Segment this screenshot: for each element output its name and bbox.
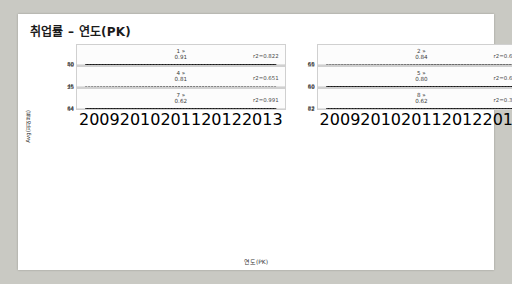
screenshot-root: 취업률 – 연도(PK) Avg(취업률) 연도(PK) 4050601 »0.… — [0, 0, 512, 284]
panel-value: 0.91 — [175, 55, 187, 61]
r2-label: r2=0.991 — [253, 97, 279, 103]
trellis-grid: 4050601 »0.91r2=0.8222535454 »0.81r2=0.6… — [54, 44, 484, 250]
x-axis: 20092010201120122013 — [54, 110, 286, 129]
y-tick-label: 64 — [67, 105, 74, 111]
panel-value: 0.81 — [175, 77, 187, 83]
panel-column-2: 5560652 »0.84r2=0.6994050605 »0.80r2=0.6… — [295, 44, 512, 129]
r2-label: r2=0.699 — [494, 53, 512, 59]
x-tick-label: 2010 — [120, 110, 161, 129]
panel-header: 5 »0.80 — [318, 67, 512, 87]
x-tick-labels: 20092010201120122013 — [317, 110, 512, 129]
plot-canvas — [77, 64, 285, 65]
plot-canvas — [318, 108, 512, 109]
plot-canvas — [318, 64, 512, 65]
x-tick-label: 2009 — [320, 110, 361, 129]
x-tick-label: 2011 — [401, 110, 442, 129]
chart-panel-8[interactable]: 6272828 »0.62r2=0.379 — [295, 88, 512, 110]
x-tick-label: 2013 — [482, 110, 512, 129]
plot-canvas — [77, 86, 285, 87]
chart-panel-1[interactable]: 4050601 »0.91r2=0.822 — [54, 44, 286, 66]
chart-panel-5[interactable]: 4050605 »0.80r2=0.640 — [295, 66, 512, 88]
x-tick-label: 2011 — [160, 110, 201, 129]
x-tick-labels: 20092010201120122013 — [76, 110, 286, 129]
plot-area[interactable]: 2 »0.84r2=0.699 — [317, 44, 512, 66]
plot-area[interactable]: 4 »0.81r2=0.651 — [76, 66, 286, 88]
page-title: 취업률 – 연도(PK) — [30, 22, 131, 39]
panel-header: 8 »0.62 — [318, 89, 512, 109]
x-axis-spacer — [54, 110, 76, 129]
chart-panel-4[interactable]: 2535454 »0.81r2=0.651 — [54, 66, 286, 88]
panel-value: 0.80 — [415, 77, 427, 83]
y-axis-ticks: 405060 — [54, 44, 76, 66]
x-tick-label: 2012 — [442, 110, 483, 129]
y-axis-title: Avg(취업률) — [24, 110, 36, 143]
r2-label: r2=0.379 — [494, 97, 512, 103]
y-axis-ticks: 253545 — [54, 66, 76, 88]
y-axis-ticks: 556065 — [295, 44, 317, 66]
x-axis-spacer — [295, 110, 317, 129]
r2-label: r2=0.651 — [253, 75, 279, 81]
x-tick-label: 2009 — [79, 110, 120, 129]
x-tick-label: 2013 — [242, 110, 283, 129]
panel-header: 2 »0.84 — [318, 45, 512, 65]
y-axis-ticks: 405060 — [295, 66, 317, 88]
chart-panel-7[interactable]: 4454647 »0.62r2=0.991 — [54, 88, 286, 110]
panel-column-1: 4050601 »0.91r2=0.8222535454 »0.81r2=0.6… — [54, 44, 286, 129]
chart-card: 취업률 – 연도(PK) Avg(취업률) 연도(PK) 4050601 »0.… — [18, 14, 494, 270]
plot-area[interactable]: 7 »0.62r2=0.991 — [76, 88, 286, 110]
y-axis-ticks: 627282 — [295, 88, 317, 110]
plot-area[interactable]: 1 »0.91r2=0.822 — [76, 44, 286, 66]
x-axis: 20092010201120122013 — [295, 110, 512, 129]
plot-area[interactable]: 5 »0.80r2=0.640 — [317, 66, 512, 88]
panel-value: 0.84 — [415, 55, 427, 61]
x-tick-label: 2010 — [360, 110, 401, 129]
r2-label: r2=0.640 — [494, 75, 512, 81]
y-axis-ticks: 445464 — [54, 88, 76, 110]
r2-label: r2=0.822 — [253, 53, 279, 59]
panel-value: 0.62 — [415, 99, 427, 105]
y-tick-label: 82 — [308, 105, 315, 111]
chart-panel-2[interactable]: 5560652 »0.84r2=0.699 — [295, 44, 512, 66]
panel-value: 0.62 — [175, 99, 187, 105]
plot-canvas — [318, 86, 512, 87]
x-axis-title: 연도(PK) — [18, 257, 494, 266]
x-tick-label: 2012 — [201, 110, 242, 129]
plot-canvas — [77, 108, 285, 109]
plot-area[interactable]: 8 »0.62r2=0.379 — [317, 88, 512, 110]
